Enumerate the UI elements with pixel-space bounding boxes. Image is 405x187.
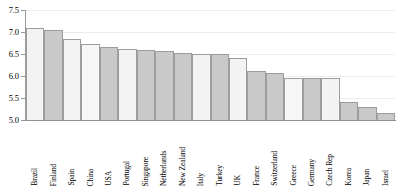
bar	[284, 78, 302, 120]
x-tick-label: Finland	[50, 164, 58, 186]
bar	[81, 44, 99, 120]
x-label-cell: France	[247, 121, 265, 187]
bar-chart: 5.05.56.06.57.07.5 BrazilFinlandSpainChi…	[0, 0, 405, 187]
x-tick-label: Turkey	[216, 165, 224, 186]
x-tick-label: France	[253, 166, 261, 186]
plot-area	[26, 10, 395, 120]
x-label-cell: Israel	[377, 121, 395, 187]
bar	[26, 28, 44, 120]
x-tick-label: Germany	[308, 159, 316, 186]
bar	[266, 73, 284, 120]
x-tick-label: Netherlands	[161, 151, 169, 186]
y-tick-label: 7.5	[9, 6, 19, 15]
x-label-cell: Greece	[284, 121, 302, 187]
x-label-cell: Spain	[63, 121, 81, 187]
x-tick-label: China	[87, 169, 95, 186]
bar	[358, 107, 376, 120]
x-tick-label: Portugal	[124, 161, 132, 186]
x-label-cell: Switzerland	[266, 121, 284, 187]
bar	[63, 39, 81, 120]
x-label-cell: USA	[100, 121, 118, 187]
bar-series	[26, 10, 395, 120]
x-label-cell: Germany	[303, 121, 321, 187]
x-tick-label: Italy	[198, 173, 206, 186]
bar	[340, 102, 358, 120]
bar	[377, 113, 395, 120]
x-tick-label: Spain	[68, 169, 76, 186]
x-axis-category-labels: BrazilFinlandSpainChinaUSAPortugalSingap…	[26, 121, 395, 187]
x-label-cell: Italy	[192, 121, 210, 187]
bar	[211, 54, 229, 120]
bar	[321, 78, 339, 120]
x-label-cell: China	[81, 121, 99, 187]
x-label-cell: UK	[229, 121, 247, 187]
bar	[100, 47, 118, 120]
x-tick-label: Singapore	[142, 157, 150, 186]
x-label-cell: Korea	[340, 121, 358, 187]
x-tick-label: Czech Rep	[327, 154, 335, 186]
y-tick-label: 7.0	[9, 28, 19, 37]
y-tick-label: 5.5	[9, 94, 19, 103]
x-tick-label: Japan	[364, 169, 372, 186]
x-tick-label: USA	[105, 171, 113, 186]
bar	[118, 49, 136, 120]
x-label-cell: Turkey	[211, 121, 229, 187]
bar	[303, 78, 321, 120]
bar	[247, 71, 265, 120]
bar	[174, 53, 192, 120]
x-tick-label: Korea	[345, 168, 353, 186]
y-tick-label: 5.0	[9, 116, 19, 125]
bar	[137, 50, 155, 120]
x-label-cell: New Zealand	[174, 121, 192, 187]
x-tick-label: Greece	[290, 165, 298, 186]
x-tick-label: UK	[234, 175, 242, 186]
bar	[192, 54, 210, 120]
bar	[229, 58, 247, 120]
bar	[44, 30, 62, 120]
x-label-cell: Finland	[44, 121, 62, 187]
bar	[155, 51, 173, 120]
x-tick-label: Israel	[382, 170, 390, 186]
y-axis: 5.05.56.06.57.07.5	[0, 0, 24, 187]
x-label-cell: Czech Rep	[321, 121, 339, 187]
x-tick-label: Brazil	[31, 168, 39, 186]
y-tick-label: 6.5	[9, 50, 19, 59]
x-label-cell: Singapore	[137, 121, 155, 187]
x-label-cell: Brazil	[26, 121, 44, 187]
x-label-cell: Netherlands	[155, 121, 173, 187]
x-label-cell: Japan	[358, 121, 376, 187]
x-label-cell: Portugal	[118, 121, 136, 187]
x-tick-label: Switzerland	[271, 151, 279, 186]
x-tick-label: New Zealand	[179, 147, 187, 186]
y-tick-label: 6.0	[9, 72, 19, 81]
